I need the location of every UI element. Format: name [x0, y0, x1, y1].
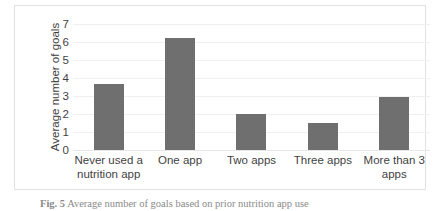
y-axis-tick-label: 4: [53, 72, 69, 84]
bar-series: [73, 24, 430, 150]
bar-slot: [73, 24, 144, 150]
bar-slot: [359, 24, 430, 150]
y-axis-tick-labels: 01234567: [53, 24, 69, 150]
y-axis-tick-label: 5: [53, 54, 69, 66]
figure-caption-tag: Fig. 5: [40, 198, 65, 209]
bar[interactable]: [94, 84, 124, 150]
bar-slot: [287, 24, 358, 150]
bar[interactable]: [379, 97, 409, 150]
x-axis-tick-label: Never used a nutrition app: [73, 153, 144, 181]
chart-frame: Average number of goals 01234567 Never u…: [14, 5, 426, 190]
figure-caption: Fig. 5 Average number of goals based on …: [40, 197, 400, 211]
y-axis-tick-label: 0: [53, 144, 69, 156]
bar[interactable]: [165, 38, 195, 151]
bar-slot: [216, 24, 287, 150]
bar[interactable]: [236, 114, 266, 150]
bar-slot: [144, 24, 215, 150]
x-axis-tick-label: One app: [144, 153, 215, 167]
figure-container: Average number of goals 01234567 Never u…: [0, 0, 440, 211]
x-axis-tick-labels: Never used a nutrition appOne appTwo app…: [73, 153, 430, 193]
figure-caption-text: Average number of goals based on prior n…: [67, 198, 309, 209]
y-axis-tick-label: 3: [53, 90, 69, 102]
y-axis-tick-label: 6: [53, 36, 69, 48]
bar[interactable]: [308, 123, 338, 150]
gridline: [73, 150, 430, 151]
x-axis-tick-label: Three apps: [287, 153, 358, 167]
x-axis-tick-label: More than 3 apps: [359, 153, 430, 181]
x-axis-tick-label: Two apps: [216, 153, 287, 167]
y-axis-tick-label: 1: [53, 126, 69, 138]
y-axis-tick-label: 7: [53, 18, 69, 30]
y-axis-tick-label: 2: [53, 108, 69, 120]
